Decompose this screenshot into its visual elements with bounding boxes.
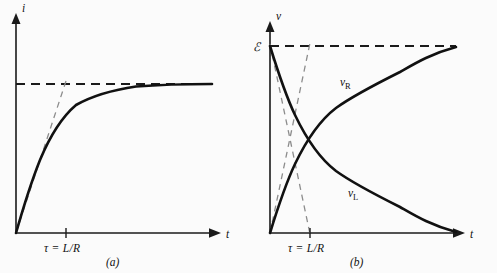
panel-a-caption: (a): [106, 256, 120, 269]
panel-b-vl-label-sub: L: [353, 192, 358, 202]
panel-b-vr-label: vR: [340, 76, 351, 91]
panel-a-current-vs-time: i t τ = L/R (a): [0, 0, 249, 273]
panel-b-vl-curve: [270, 46, 456, 232]
panel-a-tau-label: τ = L/R: [44, 242, 80, 254]
panel-b-rising-tangent-line: [270, 43, 310, 233]
panel-b-caption: (b): [350, 256, 364, 269]
panel-b-x-axis-label: t: [470, 228, 474, 240]
panel-a-current-curve: [16, 84, 212, 233]
panel-a-y-axis-label: i: [22, 2, 25, 14]
panel-b-voltage-vs-time: v t ℰ τ = L/R vR vL (b): [248, 0, 497, 273]
panel-b-tau-label: τ = L/R: [288, 242, 324, 254]
panel-b-y-axis-arrow-icon: [266, 21, 275, 32]
panel-b-y-axis-label: v: [276, 10, 282, 22]
panel-b-falling-tangent-line: [270, 44, 310, 234]
panel-a-x-axis-arrow-icon: [209, 228, 221, 238]
panel-b-vr-label-sub: R: [345, 81, 351, 91]
panel-a-x-axis-label: t: [226, 228, 230, 240]
panel-b-vr-curve: [270, 47, 456, 233]
figure-root: i t τ = L/R (a) v t ℰ τ = L/R vR: [0, 0, 497, 273]
panel-b-emf-label: ℰ: [253, 40, 262, 54]
panel-b-vl-label: vL: [348, 187, 358, 202]
panel-a-y-axis-arrow-icon: [12, 13, 21, 24]
